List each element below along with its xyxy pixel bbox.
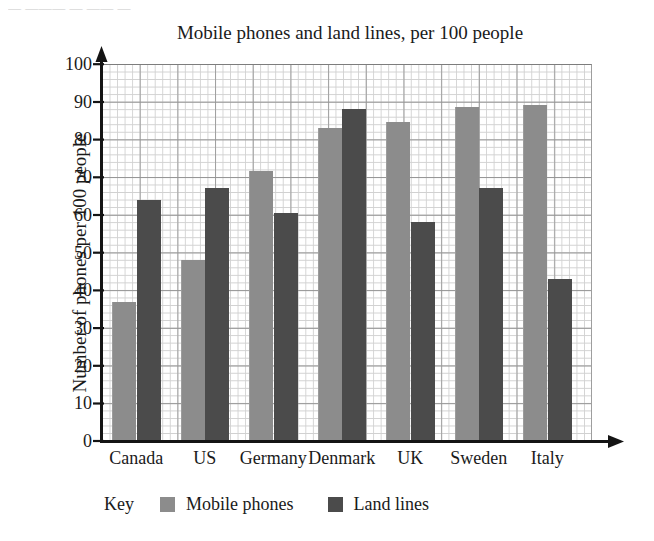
legend-swatch-land-icon [328, 497, 343, 512]
legend-key-word: Key [104, 494, 134, 515]
legend-entry-land: Land lines [328, 494, 429, 515]
legend-swatch-mobile-icon [160, 497, 175, 512]
legend-entry-mobile: Mobile phones [160, 494, 294, 515]
x-axis-category-labels: CanadaUSGermanyDenmarkUKSwedenItaly [102, 446, 597, 474]
chart-legend: Key Mobile phonesLand lines [104, 494, 463, 515]
x-label-italy: Italy [497, 446, 597, 470]
legend-entries: Mobile phonesLand lines [160, 494, 463, 515]
bar-chart-figure: Mobile phones and land lines, per 100 pe… [0, 0, 654, 541]
legend-label: Land lines [354, 494, 429, 515]
legend-label: Mobile phones [186, 494, 294, 515]
